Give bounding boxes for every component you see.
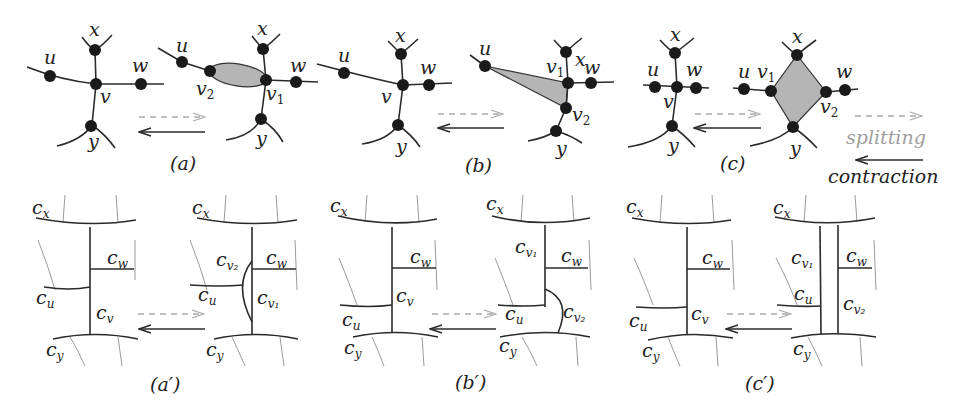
label-cx: cx bbox=[330, 194, 348, 219]
node-v1 bbox=[765, 85, 777, 97]
label-w: w bbox=[420, 56, 436, 78]
label-u: u bbox=[647, 58, 659, 80]
node-w bbox=[839, 84, 851, 96]
label-v: v bbox=[100, 85, 111, 107]
legend-contraction-label: contraction bbox=[828, 165, 938, 187]
label-cw: cw bbox=[410, 245, 432, 270]
label-y: y bbox=[87, 130, 99, 152]
label-v1: v1 bbox=[546, 55, 564, 80]
legend: splitting contraction bbox=[828, 116, 938, 187]
label-v: v bbox=[663, 90, 674, 112]
label-v2: v2 bbox=[572, 103, 590, 128]
node-x bbox=[669, 47, 681, 59]
node-u bbox=[738, 83, 750, 95]
graph-b-contracted: x u w v y bbox=[317, 24, 452, 157]
label-y: y bbox=[555, 137, 567, 159]
node-v2 bbox=[204, 65, 216, 77]
label-cy: cy bbox=[642, 339, 660, 364]
label-w: w bbox=[686, 58, 702, 80]
node-w bbox=[423, 79, 435, 91]
node-y bbox=[787, 121, 799, 133]
label-u: u bbox=[338, 44, 350, 66]
label-v2: v2 bbox=[196, 77, 214, 102]
label-x: x bbox=[257, 17, 268, 39]
label-cv1: cv₁ bbox=[515, 235, 537, 260]
dual-b-split: cx cv₁ cw cu cv₂ cy bbox=[486, 192, 591, 366]
label-cu: cu bbox=[629, 309, 647, 334]
node-v bbox=[397, 79, 409, 91]
node-y bbox=[550, 125, 562, 137]
label-u: u bbox=[479, 37, 491, 59]
label-cv2: cv₂ bbox=[216, 248, 238, 273]
graph-c-contracted: x u w v y bbox=[628, 23, 709, 156]
label-cv: cv bbox=[396, 284, 414, 309]
label-y: y bbox=[667, 134, 679, 156]
face-diamond bbox=[771, 55, 826, 127]
node-u bbox=[338, 67, 350, 79]
label-cv2: cv₂ bbox=[563, 300, 585, 325]
graph-a-split: u x w v2 v1 y bbox=[158, 17, 318, 149]
label-v: v bbox=[381, 85, 392, 107]
label-cx: cx bbox=[626, 195, 644, 220]
node-w bbox=[135, 78, 147, 90]
label-y: y bbox=[789, 137, 801, 159]
label-y: y bbox=[255, 127, 267, 149]
label-cu: cu bbox=[342, 308, 360, 333]
graph-c-split: x u v1 w v2 y bbox=[733, 25, 858, 159]
node-y bbox=[666, 120, 678, 132]
label-cv1: cv₁ bbox=[791, 246, 813, 271]
label-v2: v2 bbox=[820, 95, 838, 120]
panel-b: x u w v y u x v1 w v2 y (b) bbox=[317, 24, 614, 176]
dual-c-contracted: cx cw cv cu cy bbox=[626, 195, 734, 366]
label-cw: cw bbox=[846, 244, 868, 269]
node-x bbox=[257, 43, 269, 55]
node-u bbox=[176, 56, 188, 68]
label-cw: cw bbox=[561, 244, 583, 269]
node-x bbox=[791, 49, 803, 61]
face-v1-v2 bbox=[208, 60, 269, 91]
label-x: x bbox=[792, 25, 803, 47]
node-x bbox=[560, 46, 572, 58]
label-x: x bbox=[89, 18, 100, 40]
panel-c: x u w v y x u v1 w v2 y (c) bbox=[628, 23, 858, 174]
label-w: w bbox=[584, 56, 600, 78]
dual-b-contracted: cx cw cv cu cy bbox=[330, 194, 438, 366]
label-cy: cy bbox=[344, 336, 362, 361]
label-cy: cy bbox=[46, 338, 64, 363]
node-x bbox=[395, 48, 407, 60]
dual-a-contracted: cx cw cu cv cy bbox=[32, 195, 138, 366]
panel-a-prime: cx cw cu cv cy cx cv₂ cw cu cv₁ cy (a′) bbox=[32, 195, 298, 395]
label-cx: cx bbox=[32, 196, 50, 221]
node-w bbox=[290, 76, 302, 88]
label-cx: cx bbox=[486, 192, 504, 217]
caption-a: (a) bbox=[170, 152, 196, 174]
node-u bbox=[44, 70, 56, 82]
label-cu: cu bbox=[794, 282, 812, 307]
label-cy: cy bbox=[206, 338, 224, 363]
legend-splitting-label: splitting bbox=[846, 126, 926, 148]
label-x: x bbox=[670, 23, 681, 45]
caption-b: (b) bbox=[465, 154, 492, 176]
node-v2 bbox=[560, 102, 572, 114]
panel-b-prime: cx cw cv cu cy cx cv₁ cw cu cv₂ cy (b′) bbox=[330, 192, 591, 393]
label-cx: cx bbox=[192, 196, 210, 221]
caption-b-prime: (b′) bbox=[455, 371, 486, 393]
node-w bbox=[690, 82, 702, 94]
label-w: w bbox=[836, 60, 852, 82]
label-cy: cy bbox=[499, 334, 517, 359]
caption-c: (c) bbox=[720, 152, 745, 174]
label-cu: cu bbox=[36, 286, 54, 311]
node-y bbox=[255, 113, 267, 125]
label-v1: v1 bbox=[757, 60, 775, 85]
label-w: w bbox=[132, 54, 148, 76]
panel-c-prime: cx cw cv cu cy cx cv₁ cw cu cv₂ cy (c′) bbox=[626, 195, 876, 394]
label-cw: cw bbox=[107, 246, 129, 271]
label-cv2: cv₂ bbox=[843, 292, 865, 317]
node-x bbox=[89, 44, 101, 56]
node-y bbox=[392, 119, 404, 131]
dual-c-split: cx cv₁ cw cu cv₂ cy bbox=[773, 195, 876, 366]
node-u bbox=[479, 60, 491, 72]
dual-a-split: cx cv₂ cw cu cv₁ cy bbox=[190, 195, 298, 366]
label-cv: cv bbox=[96, 301, 114, 326]
node-w bbox=[585, 77, 597, 89]
